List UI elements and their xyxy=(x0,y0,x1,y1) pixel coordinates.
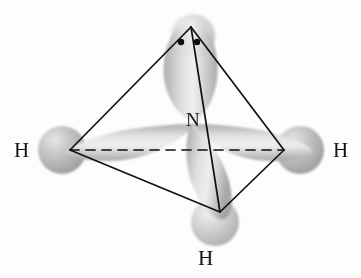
hydrogen-label-right: H xyxy=(333,140,348,161)
diagram-canvas xyxy=(0,0,361,278)
hydrogen-label-left: H xyxy=(14,140,29,161)
orbital-bond-left xyxy=(66,124,196,161)
lone-pair-dot-1 xyxy=(178,39,184,45)
ammonia-orbital-diagram: N H H H xyxy=(0,0,361,278)
nitrogen-label: N xyxy=(186,110,200,129)
orbital-lone-pair-up xyxy=(164,22,218,122)
hydrogen-label-bottom: H xyxy=(198,248,213,269)
lone-pair-dot-2 xyxy=(194,39,200,45)
edge-right-bottom xyxy=(220,150,284,212)
